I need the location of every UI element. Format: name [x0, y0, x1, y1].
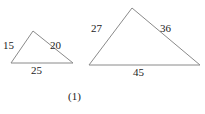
left-triangle-side-label-left: 15 — [3, 40, 14, 51]
left-triangle-side-label-bottom: 25 — [31, 65, 42, 76]
left-triangle-shape — [11, 31, 73, 63]
triangles-canvas — [0, 0, 205, 114]
right-triangle-side-label-bottom: 45 — [133, 67, 144, 78]
right-triangle-shape — [89, 8, 200, 65]
right-triangle-side-label-right: 36 — [160, 23, 171, 34]
figure-caption: (1) — [68, 90, 81, 102]
geometry-figure: 15 20 25 27 36 45 (1) — [0, 0, 205, 114]
right-triangle-side-label-left: 27 — [91, 23, 102, 34]
left-triangle-side-label-right: 20 — [50, 40, 61, 51]
